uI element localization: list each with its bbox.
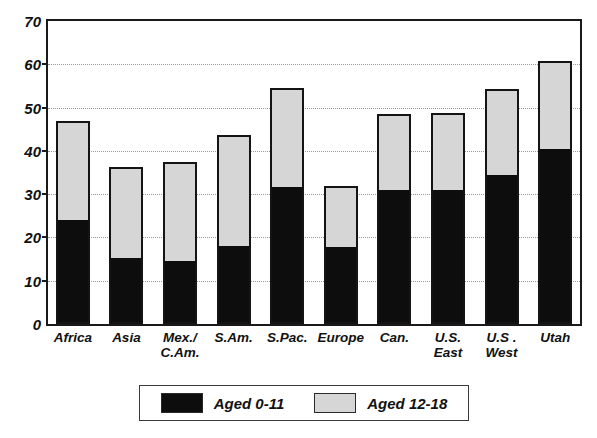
y-tick-label-20: 20	[0, 230, 41, 245]
bar-segment-aged-12-18	[272, 90, 302, 191]
legend-label-aged-0-11: Aged 0-11	[214, 395, 285, 412]
bar-segment-aged-12-18	[219, 137, 249, 250]
bar-segment-aged-12-18	[111, 169, 141, 262]
bar-segment-aged-12-18	[379, 116, 409, 194]
bar-group	[377, 114, 411, 324]
stacked-bar	[377, 114, 411, 324]
legend-entry-aged-12-18: Aged 12-18	[314, 393, 447, 413]
bar-group	[485, 89, 519, 324]
bar-segment-aged-0-11	[219, 246, 249, 322]
bar-segment-aged-12-18	[433, 115, 463, 195]
stacked-bar	[270, 88, 304, 324]
bar-segment-aged-12-18	[326, 188, 356, 251]
stacked-bar	[109, 167, 143, 324]
stacked-bar	[485, 89, 519, 324]
bar-group	[56, 121, 90, 324]
bar-segment-aged-0-11	[326, 247, 356, 322]
y-tick-label-10: 10	[0, 273, 41, 288]
bar-segment-aged-0-11	[165, 261, 195, 322]
stacked-bar	[217, 135, 251, 324]
stacked-bar	[56, 121, 90, 324]
bar-group	[431, 113, 465, 324]
bar-segment-aged-12-18	[487, 91, 517, 180]
stacked-bar-chart: 010203040506070 AfricaAsiaMex./ C.Am.S.A…	[0, 0, 597, 438]
bars-container	[46, 19, 582, 326]
legend-entry-aged-0-11: Aged 0-11	[161, 393, 285, 413]
stacked-bar	[431, 113, 465, 324]
bar-segment-aged-0-11	[111, 258, 141, 322]
x-tick-label: Utah	[522, 330, 588, 345]
y-tick-label-70: 70	[0, 14, 41, 29]
stacked-bar	[163, 162, 197, 324]
bar-segment-aged-0-11	[433, 190, 463, 322]
y-tick-label-30: 30	[0, 187, 41, 202]
bar-group	[163, 162, 197, 324]
bar-segment-aged-0-11	[540, 149, 570, 322]
light-swatch-icon	[314, 393, 356, 413]
bar-group	[538, 61, 572, 324]
bar-segment-aged-0-11	[487, 175, 517, 322]
x-axis-labels: AfricaAsiaMex./ C.Am.S.Am.S.Pac.EuropeCa…	[46, 330, 582, 374]
stacked-bar	[324, 186, 358, 325]
stacked-bar	[538, 61, 572, 324]
bar-segment-aged-0-11	[272, 187, 302, 322]
chart-legend: Aged 0-11 Aged 12-18	[139, 385, 469, 421]
dark-swatch-icon	[161, 393, 203, 413]
y-tick-label-40: 40	[0, 143, 41, 158]
bar-group	[324, 186, 358, 325]
y-tick-label-60: 60	[0, 57, 41, 72]
bar-group	[270, 88, 304, 324]
bar-group	[109, 167, 143, 324]
bar-segment-aged-0-11	[379, 190, 409, 322]
y-tick-label-0: 0	[0, 317, 41, 332]
bar-segment-aged-12-18	[58, 123, 88, 224]
bar-group	[217, 135, 251, 324]
bar-segment-aged-12-18	[165, 164, 195, 265]
legend-label-aged-12-18: Aged 12-18	[367, 395, 447, 412]
y-tick-label-50: 50	[0, 100, 41, 115]
bar-segment-aged-12-18	[540, 63, 570, 153]
bar-segment-aged-0-11	[58, 220, 88, 322]
